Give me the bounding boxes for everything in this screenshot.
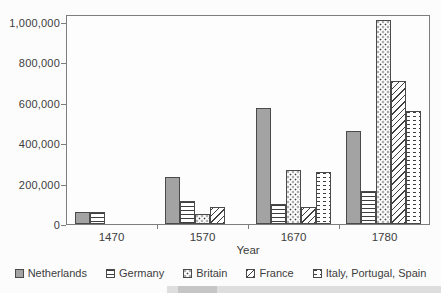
bar-britain-1670 [286,170,301,224]
y-tick-label: 0 [54,219,60,231]
bar-france-1570 [210,207,225,224]
bar-group-1670 [248,16,339,224]
bar-netherlands-1470 [75,212,90,224]
legend-label: Germany [119,267,164,279]
legend-swatch-icon [106,269,115,278]
bar-germany-1470 [90,212,105,224]
legend-item-britain: Britain [183,267,227,279]
bar-netherlands-1670 [256,108,271,224]
y-tick-mark [61,104,66,105]
y-tick-mark [61,225,66,226]
bar-italy-portugal-spain-1780 [406,111,421,224]
y-tick-label: 1,000,000 [9,17,60,29]
bar-netherlands-1780 [346,131,361,224]
legend-item-italy-portugal-spain: Italy, Portugal, Spain [313,267,427,279]
bar-germany-1570 [180,201,195,224]
y-tick-label: 800,000 [19,57,60,69]
legend-label: Britain [196,267,227,279]
x-tick-label-1670: 1670 [248,231,339,243]
bar-netherlands-1570 [165,177,180,224]
y-tick-label: 400,000 [19,138,60,150]
y-tick-mark [61,144,66,145]
scan-artifact-dark-segment [178,286,217,293]
plot-area [66,15,430,225]
legend-label: France [259,267,293,279]
x-axis-title: Year [66,244,430,256]
x-tick-mark [248,225,249,229]
y-tick-mark [61,185,66,186]
bar-france-1670 [301,207,316,224]
legend-swatch-icon [246,269,255,278]
legend: NetherlandsGermanyBritainFranceItaly, Po… [0,267,441,279]
y-tick-mark [61,23,66,24]
bar-germany-1670 [271,204,286,224]
legend-item-germany: Germany [106,267,164,279]
x-tick-label-1570: 1570 [157,231,248,243]
bar-italy-portugal-spain-1670 [316,172,331,224]
legend-label: Italy, Portugal, Spain [326,267,427,279]
bar-france-1780 [391,81,406,224]
bar-groups [67,16,429,224]
bar-germany-1780 [361,191,376,224]
legend-swatch-icon [183,269,192,278]
x-axis-labels: 1470157016701780 [66,231,430,243]
y-tick-label: 600,000 [19,98,60,110]
legend-label: Netherlands [28,267,87,279]
legend-swatch-icon [15,269,24,278]
y-tick-mark [61,63,66,64]
x-tick-mark [339,225,340,229]
y-tick-label: 200,000 [19,179,60,191]
bar-group-1570 [158,16,249,224]
legend-item-france: France [246,267,293,279]
x-tick-label-1470: 1470 [66,231,157,243]
bar-group-1780 [339,16,430,224]
bar-britain-1570 [195,214,210,224]
x-tick-mark [157,225,158,229]
bar-britain-1780 [376,20,391,224]
bar-group-1470 [67,16,158,224]
bar-chart: 0200,000400,000600,000800,0001,000,000 1… [0,0,441,293]
legend-swatch-icon [313,269,322,278]
x-tick-label-1780: 1780 [339,231,430,243]
legend-item-netherlands: Netherlands [15,267,87,279]
